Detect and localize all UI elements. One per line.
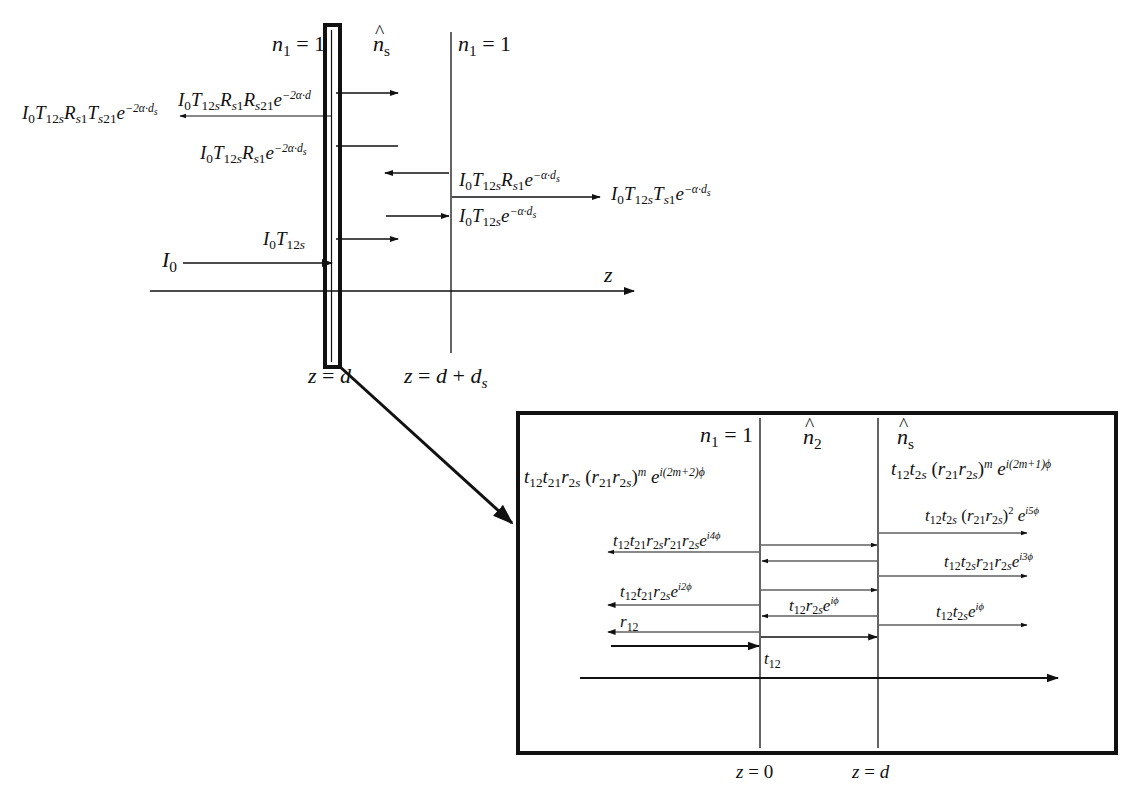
- inset-boundary-right-label: z = d: [852, 762, 889, 781]
- label-general-reflected: t12t21r2s (r21r2s)m ei(2m+2)ϕ: [524, 467, 705, 490]
- diagram-canvas: [0, 0, 1140, 800]
- label-arriving-right: I0T12se−α·ds: [459, 206, 536, 229]
- label-second-reflection: I0T12sRs1Rs21e−2α·d: [178, 90, 311, 113]
- label-incident: I0: [162, 249, 177, 274]
- inset-medium-middle-label: n2: [803, 426, 822, 451]
- label-transmitted-back: I0T12sRs1Ts21e−2α·ds: [22, 103, 158, 126]
- label-internal-1: t12r2seiϕ: [789, 596, 839, 617]
- inset-medium-right-label: ns: [897, 426, 914, 451]
- top-medium-right-label: n1 = 1: [458, 33, 511, 58]
- label-general-transmitted: t12t2s (r21r2s)m ei(2m+1)ϕ: [891, 459, 1051, 482]
- top-medium-middle-label: ns: [373, 33, 390, 58]
- film-highlight-box: [325, 25, 340, 367]
- label-reflected-r12: r12: [620, 613, 639, 633]
- top-boundary-right-label: z = d + ds: [404, 365, 487, 390]
- label-transmitted-1: t12t2seiϕ: [936, 602, 984, 623]
- label-reflected-2: t12t21r2sei2ϕ: [620, 582, 692, 603]
- label-transmitted-3: t12t2sr21r2sei3ϕ: [944, 552, 1033, 573]
- inset-medium-left-label: n1 = 1: [700, 424, 753, 449]
- label-reflected-right: I0T12sRs1e−α·ds: [459, 170, 560, 193]
- top-medium-left-label: n1 = 1: [272, 33, 325, 58]
- label-transmitted-t12: t12: [764, 650, 781, 670]
- top-boundary-left-label: z = d: [308, 365, 351, 387]
- label-reflected-4: t12t21r2sr21r2sei4ϕ: [613, 531, 720, 552]
- label-transmitted-5: t12t2s (r21r2s)2 ei5ϕ: [925, 506, 1039, 527]
- label-reflected-sample-left: I0T12sRs1e−2α·ds: [200, 143, 307, 166]
- inset-boundary-left-label: z = 0: [736, 762, 773, 781]
- label-transmitted-out: I0T12sTs1e−α·ds: [611, 184, 711, 207]
- label-transmitted-first: I0T12s: [263, 229, 305, 251]
- top-z-axis-label: z: [604, 264, 613, 286]
